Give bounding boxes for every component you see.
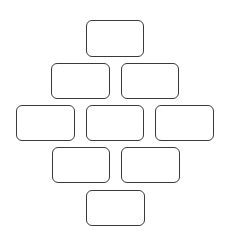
diagram-box-row4-1: [52, 147, 110, 183]
diagram-box-row3-1: [16, 105, 75, 141]
diagram-box-row1-1: [86, 20, 144, 57]
diagram-box-row2-2: [121, 63, 179, 99]
diagram-box-row2-1: [51, 63, 110, 99]
diagram-canvas: [0, 0, 231, 235]
diagram-box-row3-2: [86, 105, 144, 141]
diagram-box-row4-2: [121, 147, 180, 183]
diagram-box-row3-3: [155, 105, 214, 141]
diagram-box-row5-1: [86, 190, 145, 226]
